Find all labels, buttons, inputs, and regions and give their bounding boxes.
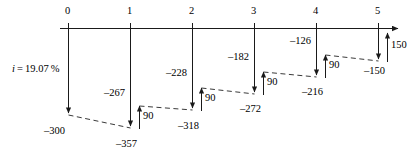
- diagram-canvas: [0, 0, 418, 161]
- tick-label-3: 3: [251, 6, 256, 17]
- tick-label-5: 5: [375, 6, 380, 17]
- tick-label-2: 2: [189, 6, 194, 17]
- tick-label-1: 1: [127, 6, 132, 17]
- up-arrows-group: [140, 33, 388, 129]
- value-label-neg-216: –216: [302, 87, 323, 98]
- value-label-neg-357: –357: [116, 139, 137, 150]
- value-label-pos-90-p3: 90: [267, 77, 278, 88]
- value-label-pos-150-p5: 150: [391, 40, 407, 51]
- tick-label-0: 0: [65, 6, 70, 17]
- value-label-neg-318: –318: [178, 121, 199, 132]
- dash-0-1: [69, 115, 131, 128]
- value-label-pos-90-p4: 90: [329, 60, 340, 71]
- tick-label-4: 4: [313, 6, 318, 17]
- value-label-neg-300: –300: [44, 126, 65, 137]
- value-label-neg-182: –182: [228, 52, 249, 63]
- down-arrows-group: [69, 29, 379, 127]
- interest-rate-label: i = 19.07 %: [12, 64, 60, 75]
- value-label-neg-228: –228: [166, 68, 187, 79]
- value-label-neg-272: –272: [240, 104, 261, 115]
- value-label-pos-90-p1: 90: [143, 111, 154, 122]
- value-label-neg-267: –267: [104, 88, 125, 99]
- value-label-neg-150: –150: [364, 66, 385, 77]
- value-label-pos-90-p2: 90: [205, 93, 216, 104]
- value-label-neg-126: –126: [290, 36, 311, 47]
- cash-flow-diagram: 0 1 2 3 4 5 i = 19.07 % –300 –357 –318 –…: [0, 0, 418, 161]
